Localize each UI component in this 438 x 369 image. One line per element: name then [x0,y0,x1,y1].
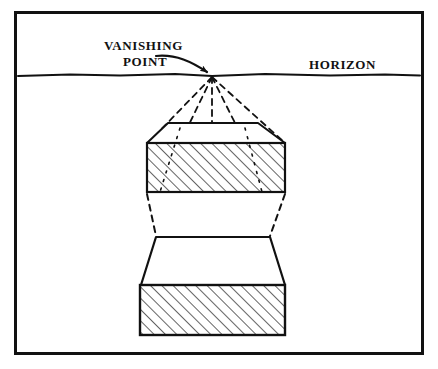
upper-slab-top-face [147,123,285,143]
lower-slab-top-face [141,237,285,285]
perspective-figure: VANISHING POINT HORIZON [0,0,438,369]
figure-canvas: VANISHING POINT HORIZON [0,0,438,369]
horizon-label: HORIZON [309,57,376,72]
connector-left [147,194,156,236]
upper-slab-front-face [147,143,285,192]
connector-rays [147,194,285,236]
vanishing-point-label-line2: POINT [123,54,167,69]
vanishing-point-label-line1: VANISHING [104,38,183,53]
horizon-line [18,74,420,76]
lower-slab-front-face [140,285,285,335]
connector-right [270,194,285,236]
